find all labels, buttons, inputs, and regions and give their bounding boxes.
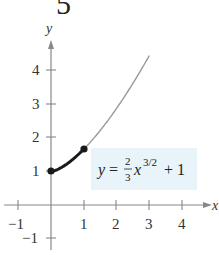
y-axis-label: y xyxy=(44,21,53,36)
y-tick-label: 3 xyxy=(32,96,40,112)
svg-text:3/2: 3/2 xyxy=(143,156,157,168)
y-tick-label: 2 xyxy=(32,129,40,145)
y-tick-label: −1 xyxy=(22,230,38,246)
x-axis-label: x xyxy=(211,198,219,213)
y-tick-label: 1 xyxy=(32,163,40,179)
end-point xyxy=(80,145,87,152)
x-tick-label: 2 xyxy=(112,216,120,232)
x-tick-label: 1 xyxy=(80,216,88,232)
y-axis-arrow-icon xyxy=(48,40,54,49)
svg-text:+ 1: + 1 xyxy=(164,161,185,178)
y-tick-label: 4 xyxy=(32,62,40,78)
svg-text:x: x xyxy=(133,161,141,178)
arc-length-segment xyxy=(51,149,84,171)
x-tick-label: 3 xyxy=(145,216,153,232)
x-tick-label: 4 xyxy=(178,216,186,232)
svg-text:2: 2 xyxy=(125,155,131,167)
x-axis-arrow-icon xyxy=(203,202,212,208)
svg-text:3: 3 xyxy=(125,171,131,183)
chart: 5 x y −1 1 2 3 4 −1 1 2 3 4 y = 2 xyxy=(0,0,219,255)
svg-text:y: y xyxy=(96,161,106,179)
svg-text:=: = xyxy=(109,161,118,178)
start-point xyxy=(47,167,54,174)
figure-number: 5 xyxy=(56,0,71,20)
